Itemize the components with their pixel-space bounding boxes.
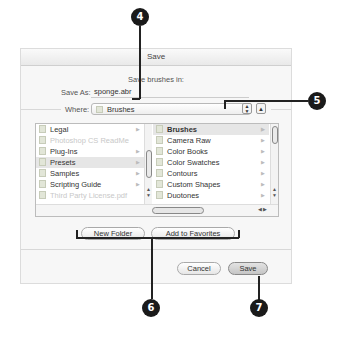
folder-icon — [156, 125, 163, 133]
callout-line — [139, 26, 141, 99]
right-column-scrollbar[interactable]: ▲▼ — [270, 124, 278, 204]
chevron-right-icon: ▶ — [261, 146, 265, 157]
divider — [21, 249, 291, 250]
callout-line — [151, 237, 153, 299]
save-dialog: Save Save brushes in: Save As: sponge.ab… — [20, 48, 292, 284]
folder-icon — [156, 191, 163, 199]
horizontal-scrollbar[interactable]: ◀ ▶ — [36, 204, 278, 216]
list-item[interactable]: Plug-Ins▶ — [36, 146, 144, 157]
callout-6: 6 — [142, 299, 160, 317]
callout-7: 7 — [250, 299, 268, 317]
scrollbar-thumb[interactable] — [272, 126, 278, 144]
callout-line — [76, 237, 239, 239]
scroll-arrows-icon[interactable]: ▲▼ — [146, 186, 151, 198]
callout-line — [258, 276, 260, 300]
list-item[interactable]: Color Swatches▶ — [153, 157, 269, 168]
chevron-right-icon: ▶ — [261, 124, 265, 135]
list-item[interactable]: Brushes▶ — [153, 124, 269, 135]
chevron-right-icon: ▶ — [136, 168, 140, 179]
plugin-folder-icon — [39, 147, 46, 155]
list-item[interactable]: Photoshop CS ReadMe — [36, 135, 144, 146]
document-icon — [39, 191, 46, 199]
list-item[interactable]: Color Books▶ — [153, 146, 269, 157]
chevron-right-icon: ▶ — [136, 157, 140, 168]
cancel-button[interactable]: Cancel — [177, 262, 221, 275]
chevron-right-icon: ▶ — [136, 124, 140, 135]
scroll-arrows-icon[interactable]: ◀ ▶ — [258, 206, 267, 212]
callout-line — [224, 100, 226, 109]
folder-icon — [156, 169, 163, 177]
save-as-input[interactable]: sponge.abr — [91, 86, 249, 98]
where-popup[interactable]: Brushes — [91, 103, 251, 115]
list-item[interactable]: Duotones▶ — [153, 190, 269, 201]
divider — [271, 109, 291, 110]
list-item[interactable]: Samples▶ — [36, 168, 144, 179]
chevron-right-icon: ▶ — [261, 135, 265, 146]
folder-icon — [39, 180, 46, 188]
folder-icon — [39, 125, 46, 133]
chevron-right-icon: ▶ — [261, 190, 265, 201]
scrollbar-thumb[interactable] — [146, 150, 152, 178]
chevron-right-icon: ▶ — [261, 157, 265, 168]
list-item[interactable]: Presets▶ — [36, 157, 144, 168]
browser-column-left[interactable]: Legal▶ Photoshop CS ReadMe Plug-Ins▶ Pre… — [36, 124, 144, 204]
scroll-arrows-icon[interactable]: ▲▼ — [272, 186, 277, 198]
folder-icon — [156, 147, 163, 155]
chevron-right-icon: ▶ — [261, 179, 265, 190]
chevron-right-icon: ▶ — [136, 179, 140, 190]
folder-icon — [156, 136, 163, 144]
list-item[interactable]: Camera Raw▶ — [153, 135, 269, 146]
list-item[interactable]: Contours▶ — [153, 168, 269, 179]
callout-line — [132, 98, 140, 100]
save-as-label: Save As: — [61, 88, 91, 97]
document-icon — [39, 136, 46, 144]
left-column-scrollbar[interactable]: ▲▼ — [144, 124, 152, 204]
chevron-right-icon: ▶ — [261, 168, 265, 179]
list-item[interactable]: Scripting Guide▶ — [36, 179, 144, 190]
list-item[interactable]: Custom Shapes▶ — [153, 179, 269, 190]
callout-line — [224, 100, 308, 102]
browser-column-right[interactable]: Brushes▶ Camera Raw▶ Color Books▶ Color … — [153, 124, 269, 204]
where-label: Where: — [65, 105, 89, 114]
folder-icon — [39, 169, 46, 177]
up-down-arrows-icon[interactable]: ▲▼ — [242, 103, 252, 114]
callout-5: 5 — [308, 92, 326, 110]
scrollbar-thumb[interactable] — [152, 207, 204, 214]
callout-4: 4 — [131, 8, 149, 26]
list-item[interactable]: Legal▶ — [36, 124, 144, 135]
where-value: Brushes — [107, 104, 135, 115]
divider — [21, 109, 61, 110]
dialog-title: Save — [21, 49, 291, 66]
expand-collapse-button[interactable]: ▲ — [256, 103, 266, 114]
file-browser[interactable]: Legal▶ Photoshop CS ReadMe Plug-Ins▶ Pre… — [35, 123, 279, 217]
folder-icon — [156, 180, 163, 188]
folder-icon — [39, 158, 46, 166]
chevron-right-icon: ▶ — [136, 146, 140, 157]
folder-icon — [96, 106, 103, 113]
save-button[interactable]: Save — [228, 262, 268, 275]
save-prompt: Save brushes in: — [21, 75, 291, 84]
folder-icon — [156, 158, 163, 166]
list-item[interactable]: Third Party License.pdf — [36, 190, 144, 201]
